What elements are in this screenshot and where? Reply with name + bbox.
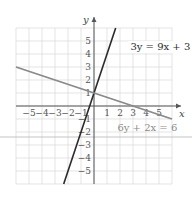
y-tick-label: 3 (85, 62, 91, 72)
y-tick-label: −5 (78, 166, 92, 176)
y-axis-label: y (82, 14, 89, 25)
x-tick-label: −5 (22, 108, 36, 118)
y-tick-label: −3 (78, 140, 92, 150)
x-tick-label: 1 (104, 108, 110, 118)
y-tick-label: 4 (85, 49, 91, 59)
y-tick-label: 2 (85, 75, 91, 85)
axes: xy (16, 14, 185, 184)
x-tick-label: −4 (35, 108, 49, 118)
x-tick-label: 2 (117, 108, 123, 118)
x-tick-label: 3 (130, 108, 136, 118)
x-tick-label: −2 (61, 108, 74, 118)
y-axis-arrow-icon (92, 17, 97, 22)
graph: xy −5−4−3−2−112345−5−4−3−2−112345 3y = 9… (0, 0, 192, 200)
x-axis-label: x (179, 108, 185, 119)
y-tick-label: 5 (85, 36, 91, 46)
x-tick-label: 5 (156, 108, 162, 118)
equation-label: 3y = 9x + 3 (130, 41, 190, 52)
x-tick-label: −3 (48, 108, 62, 118)
y-tick-label: −4 (78, 153, 92, 163)
equation-label: 6y + 2x = 6 (117, 122, 177, 133)
